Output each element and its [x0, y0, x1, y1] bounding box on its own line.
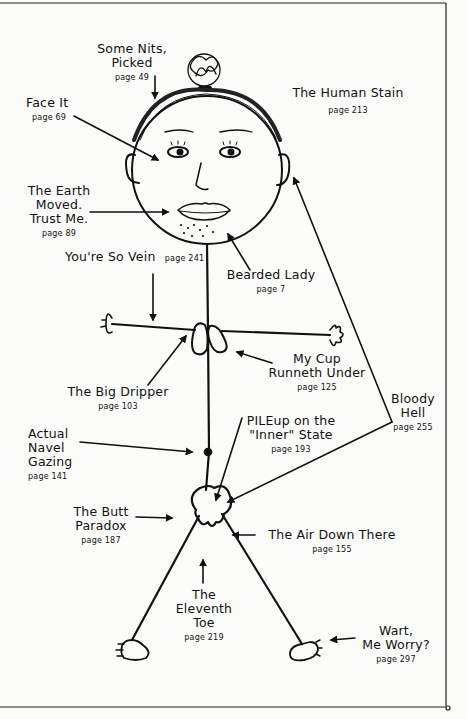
label-title: Bearded Lady — [222, 268, 320, 282]
page-reference: page 219 — [173, 634, 235, 643]
label-title: Paradox — [70, 519, 132, 533]
page-reference: page 193 — [236, 446, 346, 455]
label-title: The — [173, 588, 235, 602]
label-title: Eleventh — [173, 602, 235, 616]
label-title: Gazing — [28, 455, 72, 469]
page-reference: page 103 — [62, 403, 174, 412]
label-bearded-lady: Bearded Lady page 7 — [222, 268, 320, 295]
label-title: Bloody — [388, 392, 438, 406]
label-so-vein: You're So Vein page 241 — [65, 247, 204, 265]
page-reference: page 141 — [28, 473, 72, 482]
page-reference: page 89 — [20, 230, 98, 239]
label-bloody-hell: Bloody Hell page 255 — [388, 392, 438, 433]
label-title: The Butt — [70, 505, 132, 519]
page-reference: page 241 — [165, 254, 204, 263]
label-butt-paradox: The Butt Paradox page 187 — [70, 505, 132, 546]
label-eleventh-toe: The Eleventh Toe page 219 — [173, 588, 235, 643]
label-title: Trust Me. — [20, 212, 98, 226]
label-title: PILEup on the — [236, 414, 346, 428]
label-title: Wart, — [355, 624, 437, 638]
label-title: Runneth Under — [262, 366, 372, 380]
label-title: "Inner" State — [236, 428, 346, 442]
diagram-page: Some Nits, Picked page 49 Face It page 6… — [0, 0, 467, 719]
page-reference: page 69 — [32, 114, 68, 123]
label-navel-gazing: Actual Navel Gazing page 141 — [28, 427, 72, 482]
label-title: Actual — [28, 427, 72, 441]
hair-bun-icon — [188, 54, 220, 88]
head-icon — [126, 90, 289, 244]
label-earth-moved: The Earth Moved. Trust Me. page 89 — [20, 184, 98, 239]
label-cup-runneth: My Cup Runneth Under page 125 — [262, 352, 372, 393]
label-title: My Cup — [262, 352, 372, 366]
page-reference: page 213 — [288, 107, 408, 116]
label-title: Toe — [173, 616, 235, 630]
label-title: Hell — [388, 406, 438, 420]
page-reference: page 187 — [70, 537, 132, 546]
label-title: Some Nits, — [88, 42, 176, 56]
label-some-nits-picked: Some Nits, Picked page 49 — [88, 42, 176, 83]
label-title: The Human Stain — [288, 86, 408, 100]
label-human-stain: The Human Stain page 213 — [288, 86, 408, 116]
label-pileup: PILEup on the "Inner" State page 193 — [236, 414, 346, 455]
label-title: You're So Vein — [65, 249, 156, 264]
label-face-it: Face It page 69 — [26, 96, 68, 123]
label-title: Me Worry? — [355, 638, 437, 652]
label-title: Navel — [28, 441, 72, 455]
label-title: Moved. — [20, 198, 98, 212]
page-reference: page 297 — [355, 656, 437, 665]
label-title: The Air Down There — [262, 528, 402, 542]
page-reference: page 255 — [388, 424, 438, 433]
page-reference: page 49 — [88, 74, 176, 83]
label-title: The Big Dripper — [62, 385, 174, 399]
label-title: Face It — [26, 96, 68, 110]
stubble-icon — [180, 224, 214, 237]
label-wart-worry: Wart, Me Worry? page 297 — [355, 624, 437, 665]
label-title: Picked — [88, 56, 176, 70]
label-title: The Earth — [20, 184, 98, 198]
page-reference: page 7 — [222, 286, 320, 295]
label-air-down-there: The Air Down There page 155 — [262, 528, 402, 555]
page-reference: page 155 — [262, 546, 402, 555]
page-reference: page 125 — [262, 384, 372, 393]
label-big-dripper: The Big Dripper page 103 — [62, 385, 174, 412]
